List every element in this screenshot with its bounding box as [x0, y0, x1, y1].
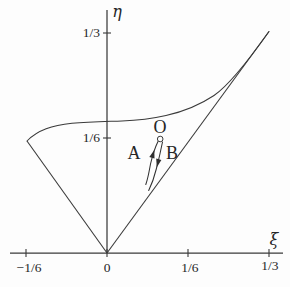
eta-axis-label: η: [112, 2, 122, 21]
point-o-marker: [157, 136, 163, 142]
trajectory-a-arrowhead-up: [149, 150, 154, 159]
trajectory-b-arrowhead-down: [156, 159, 161, 168]
label-trajectory-b: B: [166, 143, 178, 163]
phase-diagram: η ξ 1/3 1/6 −1/6 0 1/6 1/3 O A B: [0, 0, 290, 287]
x-tick-label-one-third: 1/3: [261, 258, 279, 273]
x-tick-label-zero: 0: [104, 260, 111, 275]
trajectory-a-curve: [146, 142, 158, 185]
trajectory-b-curve: [149, 142, 163, 191]
figure-container: η ξ 1/3 1/6 −1/6 0 1/6 1/3 O A B: [0, 0, 290, 287]
x-tick-label-neg-one-sixth: −1/6: [17, 260, 42, 275]
x-tick-label-one-sixth: 1/6: [181, 260, 199, 275]
y-tick-label-one-sixth: 1/6: [83, 130, 101, 145]
xi-axis-label: ξ: [270, 230, 280, 249]
upper-boundary-curve: [27, 32, 269, 142]
left-boundary-line: [27, 141, 107, 253]
y-tick-label-one-third: 1/3: [83, 25, 101, 40]
label-trajectory-a: A: [128, 143, 141, 163]
label-point-o: O: [154, 117, 167, 137]
